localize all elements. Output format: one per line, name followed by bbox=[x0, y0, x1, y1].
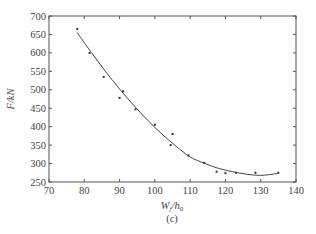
y-tick-label: 650 bbox=[30, 29, 46, 40]
fit-curve bbox=[77, 33, 278, 176]
y-tick-label: 700 bbox=[30, 11, 46, 22]
x-tick-label: 110 bbox=[182, 185, 197, 196]
chart-svg: 7080901001101201301402503003504004505005… bbox=[0, 0, 316, 234]
y-tick-label: 600 bbox=[30, 47, 46, 58]
data-point bbox=[172, 133, 174, 135]
y-tick-label: 550 bbox=[30, 66, 46, 77]
data-point bbox=[103, 76, 105, 78]
data-point bbox=[154, 124, 156, 126]
y-tick-label: 350 bbox=[30, 140, 46, 151]
data-point bbox=[224, 172, 226, 174]
y-tick-label: 250 bbox=[30, 177, 46, 188]
axes: 7080901001101201301402503003504004505005… bbox=[30, 11, 304, 197]
x-axis-title: Wj/h0 bbox=[161, 200, 184, 213]
data-point bbox=[76, 28, 78, 30]
data-point bbox=[89, 52, 91, 54]
x-tick-label: 130 bbox=[253, 185, 269, 196]
x-tick-label: 90 bbox=[114, 185, 125, 196]
plot-area bbox=[76, 28, 279, 175]
data-point bbox=[254, 172, 256, 174]
x-tick-label: 100 bbox=[147, 185, 163, 196]
x-tick-label: 120 bbox=[218, 185, 234, 196]
data-point bbox=[170, 144, 172, 146]
y-tick-label: 300 bbox=[30, 158, 46, 169]
y-tick-label: 400 bbox=[30, 121, 46, 132]
chart: 7080901001101201301402503003504004505005… bbox=[0, 0, 316, 234]
y-axis-title: F/kN bbox=[5, 88, 16, 111]
subfigure-label: (c) bbox=[166, 213, 178, 225]
x-tick-label: 80 bbox=[79, 185, 90, 196]
x-tick-label: 140 bbox=[288, 185, 304, 196]
data-point bbox=[216, 171, 218, 173]
plot-frame bbox=[49, 16, 296, 182]
y-tick-label: 500 bbox=[30, 84, 46, 95]
data-point bbox=[119, 97, 121, 99]
y-tick-label: 450 bbox=[30, 103, 46, 114]
